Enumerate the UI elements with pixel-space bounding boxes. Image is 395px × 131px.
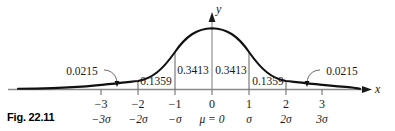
sigma-label-minus3sigma: −3σ <box>91 113 110 125</box>
area-label-minus2-to-minus1: 0.1359 <box>140 75 172 87</box>
normal-distribution-figure: 0.0215 0.1359 0.3413 0.3413 0.1359 0.021… <box>0 0 395 131</box>
x-tick-label-minus2: −2 <box>132 97 145 112</box>
area-label-plus1-to-plus2: 0.1359 <box>252 75 284 87</box>
area-label-right-tail: 0.0215 <box>326 65 358 77</box>
x-axis-label: x <box>375 82 380 97</box>
sigma-label-minus1sigma: −σ <box>168 113 181 125</box>
y-axis <box>209 12 216 90</box>
area-label-left-tail: 0.0215 <box>66 65 98 77</box>
sigma-label-mean: μ = 0 <box>199 113 224 125</box>
x-tick-label-plus3: 3 <box>319 97 325 112</box>
x-tick-label-zero: 0 <box>209 97 215 112</box>
figure-caption: Fig. 22.11 <box>7 111 55 123</box>
x-tick-label-minus3: −3 <box>95 97 108 112</box>
y-axis-label: y <box>216 2 221 17</box>
sigma-label-minus2sigma: −2σ <box>128 113 147 125</box>
sigma-label-plus3sigma: 3σ <box>316 113 327 125</box>
bell-curve <box>18 28 360 89</box>
x-tick-label-plus1: 1 <box>246 97 252 112</box>
sigma-label-plus1sigma: σ <box>246 113 252 125</box>
sigma-label-plus2sigma: 2σ <box>280 113 291 125</box>
x-tick-label-minus1: −1 <box>169 97 182 112</box>
area-label-mean-to-plus1: 0.3413 <box>215 64 247 76</box>
area-label-minus1-to-mean: 0.3413 <box>177 64 209 76</box>
x-axis-ticks <box>101 90 322 96</box>
x-tick-label-plus2: 2 <box>283 97 289 112</box>
